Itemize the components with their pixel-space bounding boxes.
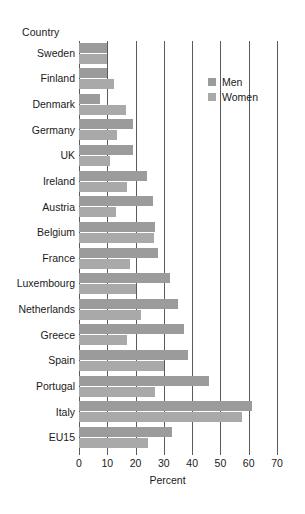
x-tick-mark-70 (277, 451, 278, 455)
bar-netherlands-men (79, 299, 178, 309)
bar-ireland-women (79, 182, 127, 192)
legend-swatch-men-icon (208, 78, 216, 86)
bar-group (79, 273, 277, 299)
bar-group (79, 350, 277, 376)
category-label-finland: Finland (0, 73, 75, 84)
legend-label-men: Men (222, 76, 242, 88)
gridline-70 (277, 41, 278, 451)
category-label-austria: Austria (0, 202, 75, 213)
bar-luxembourg-women (79, 284, 136, 294)
bar-ireland-men (79, 171, 147, 181)
bar-spain-men (79, 350, 188, 360)
bar-group (79, 427, 277, 453)
bar-austria-men (79, 196, 153, 206)
bar-sweden-men (79, 43, 107, 53)
x-tick-mark-60 (249, 451, 250, 455)
category-label-luxembourg: Luxembourg (0, 278, 75, 289)
legend-swatch-women-icon (208, 93, 216, 101)
bar-denmark-women (79, 105, 126, 115)
bar-germany-men (79, 119, 133, 129)
x-axis: 010203040506070 (79, 451, 277, 471)
bar-greece-men (79, 324, 184, 334)
y-axis-caption: Country (22, 26, 59, 38)
category-label-belgium: Belgium (0, 227, 75, 238)
category-label-sweden: Sweden (0, 48, 75, 59)
bar-finland-women (79, 79, 114, 89)
bar-luxembourg-men (79, 273, 170, 283)
bar-uk-women (79, 156, 110, 166)
bar-italy-men (79, 401, 252, 411)
bar-eu15-women (79, 438, 148, 448)
bar-austria-women (79, 207, 116, 217)
category-label-uk: UK (0, 150, 75, 161)
x-tick-mark-10 (107, 451, 108, 455)
bar-denmark-men (79, 94, 100, 104)
category-label-column: SwedenFinlandDenmarkGermanyUKIrelandAust… (0, 41, 75, 451)
legend-item-men: Men (208, 74, 258, 89)
bar-france-women (79, 259, 130, 269)
bar-eu15-men (79, 427, 172, 437)
x-tick-label-30: 30 (152, 457, 176, 469)
bar-group (79, 196, 277, 222)
category-label-ireland: Ireland (0, 176, 75, 187)
category-label-eu15: EU15 (0, 432, 75, 443)
category-label-netherlands: Netherlands (0, 304, 75, 315)
bar-belgium-women (79, 233, 154, 243)
bar-sweden-women (79, 54, 107, 64)
legend-item-women: Women (208, 89, 258, 104)
x-axis-title: Percent (0, 474, 305, 486)
bar-france-men (79, 248, 158, 258)
x-tick-label-20: 20 (124, 457, 148, 469)
bar-finland-men (79, 68, 107, 78)
x-tick-label-60: 60 (237, 457, 261, 469)
bar-italy-women (79, 412, 242, 422)
bar-group (79, 248, 277, 274)
bar-chart: Country SwedenFinlandDenmarkGermanyUKIre… (0, 0, 305, 514)
category-label-germany: Germany (0, 125, 75, 136)
bar-belgium-men (79, 222, 155, 232)
category-label-italy: Italy (0, 407, 75, 418)
bar-germany-women (79, 130, 117, 140)
bar-group (79, 299, 277, 325)
bar-netherlands-women (79, 310, 141, 320)
category-label-france: France (0, 253, 75, 264)
bar-spain-women (79, 361, 164, 371)
bar-group (79, 376, 277, 402)
bar-group (79, 401, 277, 427)
bar-group (79, 222, 277, 248)
category-label-spain: Spain (0, 355, 75, 366)
category-label-greece: Greece (0, 330, 75, 341)
bar-uk-men (79, 145, 133, 155)
legend-label-women: Women (222, 91, 258, 103)
bar-group (79, 324, 277, 350)
category-label-portugal: Portugal (0, 381, 75, 392)
bar-group (79, 119, 277, 145)
bar-portugal-men (79, 376, 209, 386)
x-tick-mark-20 (136, 451, 137, 455)
x-tick-label-50: 50 (208, 457, 232, 469)
bar-group (79, 43, 277, 69)
x-tick-mark-50 (220, 451, 221, 455)
x-tick-label-10: 10 (95, 457, 119, 469)
x-tick-label-40: 40 (180, 457, 204, 469)
chart-legend: Men Women (208, 74, 258, 104)
category-label-denmark: Denmark (0, 99, 75, 110)
bar-portugal-women (79, 387, 155, 397)
x-tick-mark-30 (164, 451, 165, 455)
bar-group (79, 145, 277, 171)
x-tick-mark-0 (79, 451, 80, 455)
bar-group (79, 171, 277, 197)
x-tick-label-0: 0 (67, 457, 91, 469)
bar-greece-women (79, 335, 127, 345)
x-tick-mark-40 (192, 451, 193, 455)
x-tick-label-70: 70 (265, 457, 289, 469)
